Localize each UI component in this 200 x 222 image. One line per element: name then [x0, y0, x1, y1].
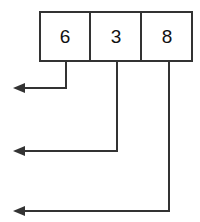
array-cell-label-0: 6 — [60, 26, 71, 47]
pointer-arrow-line-1 — [23, 61, 117, 151]
pointer-arrow-head-1 — [13, 146, 25, 156]
pointer-arrow-head-0 — [13, 83, 25, 93]
pointer-arrow-from-cell-2 — [13, 61, 169, 216]
array-pointer-diagram: 6 3 8 — [0, 0, 200, 222]
array-cell-label-1: 3 — [111, 26, 122, 47]
pointer-arrow-line-0 — [23, 61, 66, 88]
array-cell-label-2: 8 — [162, 26, 173, 47]
diagram-canvas: 6 3 8 — [0, 0, 200, 222]
pointer-arrow-from-cell-0 — [13, 61, 66, 93]
pointer-arrow-head-2 — [13, 206, 25, 216]
pointer-arrow-line-2 — [23, 61, 169, 211]
